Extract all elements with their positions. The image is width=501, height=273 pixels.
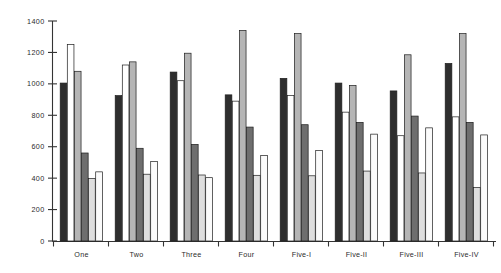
bar	[170, 72, 177, 241]
bar	[129, 62, 136, 241]
bar	[302, 125, 309, 241]
bar	[261, 155, 268, 241]
y-tick-label: 600	[31, 142, 44, 151]
bar	[115, 96, 122, 241]
bar	[232, 101, 239, 241]
bar	[137, 148, 144, 241]
bar	[419, 173, 426, 241]
y-tick-label: 0	[40, 237, 44, 246]
category-label: Five-II	[346, 250, 368, 259]
bar	[247, 127, 254, 241]
bar	[371, 134, 378, 241]
y-tick-label: 1000	[27, 79, 44, 88]
bar	[294, 34, 301, 241]
bar	[254, 175, 261, 241]
bar	[467, 122, 474, 241]
bar	[412, 116, 419, 241]
bar	[239, 30, 246, 241]
bar	[390, 91, 397, 241]
bar	[184, 53, 191, 241]
bar	[309, 176, 316, 241]
y-tick-label: 200	[31, 205, 44, 214]
bar	[287, 96, 294, 241]
bar-chart: 0200400600800100012001400 OneTwoThreeFou…	[0, 0, 501, 273]
bar	[206, 178, 213, 241]
bar	[474, 188, 481, 241]
bar	[225, 95, 232, 241]
y-tick-label: 400	[31, 174, 44, 183]
bar	[481, 135, 488, 241]
bar	[280, 78, 287, 241]
bar	[89, 178, 96, 241]
bar	[397, 136, 404, 241]
y-tick-label: 1400	[27, 17, 44, 26]
chart-canvas: 0200400600800100012001400 OneTwoThreeFou…	[0, 0, 501, 273]
bar	[199, 175, 206, 241]
bar	[342, 112, 349, 241]
y-tick-label: 800	[31, 111, 44, 120]
bar	[404, 55, 411, 241]
bar	[82, 153, 89, 241]
category-label: Five-I	[292, 250, 311, 259]
bar	[151, 162, 158, 241]
bar	[349, 85, 356, 241]
bar	[67, 45, 74, 241]
category-label: One	[74, 250, 88, 259]
category-label: Five-IV	[454, 250, 479, 259]
bar	[60, 83, 67, 241]
bar	[445, 63, 452, 241]
y-tick-label: 1200	[27, 48, 44, 57]
bar	[459, 34, 466, 241]
bar	[74, 71, 81, 241]
bar	[316, 151, 323, 241]
category-label: Two	[130, 250, 144, 259]
bar	[364, 171, 371, 241]
bar	[452, 117, 459, 241]
bar	[426, 128, 433, 241]
bar	[144, 174, 151, 241]
bar	[122, 65, 129, 241]
bar	[335, 83, 342, 241]
bar	[357, 122, 364, 241]
category-label: Five-III	[400, 250, 424, 259]
bar	[177, 81, 184, 241]
bar	[192, 144, 199, 241]
category-label: Four	[239, 250, 255, 259]
bar	[96, 172, 103, 241]
category-label: Three	[181, 250, 201, 259]
